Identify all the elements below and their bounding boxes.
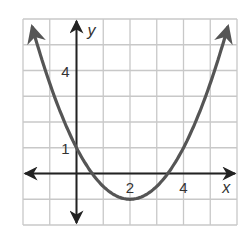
- y-tick-label-1: 1: [61, 140, 69, 157]
- x-axis-label: x: [221, 179, 231, 196]
- y-axis-label: y: [87, 22, 97, 39]
- x-tick-label-4: 4: [179, 179, 187, 196]
- parabola-graph: 2414xy: [0, 0, 248, 230]
- x-tick-label-2: 2: [126, 179, 134, 196]
- y-tick-label-4: 4: [61, 63, 69, 80]
- axis-labels: 2414xy: [61, 22, 231, 196]
